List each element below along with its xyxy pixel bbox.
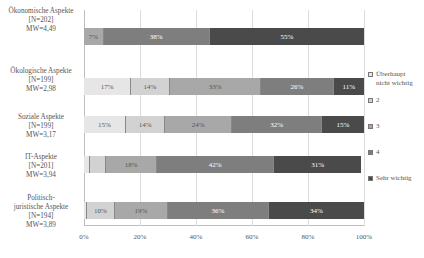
category-label-line: MW=2,98 <box>0 85 82 94</box>
legend-item: 2 <box>368 96 380 105</box>
bar-segment: 24% <box>165 116 232 133</box>
data-label: 34% <box>310 207 323 215</box>
legend-label-line: 2 <box>376 96 380 105</box>
legend-label: 4 <box>376 148 380 157</box>
bar-segment: 32% <box>232 116 322 133</box>
legend-label-line: 3 <box>376 122 380 131</box>
category-label-line: Ökologische Aspekte <box>0 67 82 76</box>
legend-swatch-icon <box>368 124 373 129</box>
x-tick-label: 20% <box>134 233 147 241</box>
bar-segment: 38% <box>104 28 210 45</box>
data-label: 31% <box>311 161 324 169</box>
category-label-line: Ökonomische Aspekte <box>0 7 82 16</box>
bar-row: 17%14%33%26%11% <box>84 78 364 95</box>
bar-segment: 15% <box>84 116 126 133</box>
bar-segment: 26% <box>261 78 333 95</box>
data-label: 26% <box>291 83 304 91</box>
bar-segment: 55% <box>210 28 364 45</box>
legend-swatch-icon <box>368 150 373 155</box>
data-label: 11% <box>342 83 355 91</box>
x-axis <box>84 225 364 226</box>
bar-segment: 15% <box>322 116 364 133</box>
data-label: 18% <box>125 161 138 169</box>
bar-segment: 34% <box>269 202 364 219</box>
x-tick-label: 60% <box>246 233 259 241</box>
bar-segment: 17% <box>84 78 131 95</box>
bar-row: 15%14%24%32%15% <box>84 116 364 133</box>
x-tick-label: 100% <box>356 233 372 241</box>
category-label-line: Politisch- <box>0 194 82 203</box>
bar-segment: 11% <box>334 78 364 95</box>
category-label: Ökologische Aspekte[N=199]MW=2,98 <box>0 67 82 94</box>
category-label-line: [N=202] <box>0 16 82 25</box>
category-label-line: Soziale Aspekte <box>0 113 82 122</box>
category-label: Ökonomische Aspekte[N=202]MW=4,49 <box>0 7 82 34</box>
legend-label: 3 <box>376 122 380 131</box>
data-label: 19% <box>134 207 147 215</box>
stacked-bar-chart: 7%38%55%17%14%33%26%11%15%14%24%32%15%18… <box>0 0 424 258</box>
legend-label: 2 <box>376 96 380 105</box>
x-tick-label: 0% <box>79 233 88 241</box>
bar-segment: 36% <box>168 202 269 219</box>
legend-item: Sehr wichtig <box>368 174 412 183</box>
bar-segment: 31% <box>274 156 361 173</box>
legend-item: 4 <box>368 148 380 157</box>
data-label: 33% <box>209 83 222 91</box>
bar-segment: 19% <box>115 202 168 219</box>
bar-row: 10%19%36%34% <box>84 202 364 219</box>
category-label-line: MW=4,49 <box>0 25 82 34</box>
data-label: 24% <box>192 121 205 129</box>
legend-swatch-icon <box>368 176 373 181</box>
category-label-line: MW=3,89 <box>0 221 82 230</box>
data-label: 32% <box>270 121 283 129</box>
bar-segment: 7% <box>84 28 104 45</box>
data-label: 42% <box>209 161 222 169</box>
legend-label: Überhauptnicht wichtig <box>376 70 413 88</box>
bar-row: 7%38%55% <box>84 28 364 45</box>
data-label: 17% <box>101 83 114 91</box>
legend-swatch-icon <box>368 98 373 103</box>
legend-item: Überhauptnicht wichtig <box>368 70 413 88</box>
bar-segment: 14% <box>126 116 165 133</box>
plot-area: 7%38%55%17%14%33%26%11%15%14%24%32%15%18… <box>84 10 364 226</box>
category-label-line: IT-Aspekte <box>0 153 82 162</box>
category-label: Politisch-juristische Aspekte[N=194]MW=3… <box>0 194 82 230</box>
data-label: 15% <box>337 121 350 129</box>
legend-item: 3 <box>368 122 380 131</box>
category-label: Soziale Aspekte[N=199]MW=3,17 <box>0 113 82 140</box>
data-label: 14% <box>144 83 157 91</box>
x-tick-label: 80% <box>302 233 315 241</box>
data-label: 14% <box>139 121 152 129</box>
category-label-line: [N=199] <box>0 76 82 85</box>
bar-row: 18%42%31% <box>84 156 364 173</box>
bar-segment: 42% <box>157 156 275 173</box>
data-label: 15% <box>98 121 111 129</box>
category-label-line: MW=3,94 <box>0 171 82 180</box>
data-label: 36% <box>211 207 224 215</box>
bar-segment: 10% <box>87 202 115 219</box>
data-label: 55% <box>281 33 294 41</box>
legend-label-line: nicht wichtig <box>376 79 413 88</box>
data-label: 38% <box>150 33 163 41</box>
data-label: 10% <box>94 207 107 215</box>
category-label-line: [N=194] <box>0 212 82 221</box>
data-label: 7% <box>89 33 98 41</box>
bar-segment: 33% <box>170 78 261 95</box>
category-label-line: juristische Aspekte <box>0 203 82 212</box>
bar-segment <box>90 156 107 173</box>
category-label-line: [N=201] <box>0 162 82 171</box>
x-tick-label: 40% <box>190 233 203 241</box>
legend-swatch-icon <box>368 72 373 77</box>
bar-segment: 18% <box>106 156 156 173</box>
legend-label-line: Sehr wichtig <box>376 174 412 183</box>
bar-segment: 14% <box>131 78 170 95</box>
category-label-line: [N=199] <box>0 122 82 131</box>
gridline <box>364 10 365 226</box>
legend-label-line: Überhaupt <box>376 70 413 79</box>
legend-label: Sehr wichtig <box>376 174 412 183</box>
category-label-line: MW=3,17 <box>0 131 82 140</box>
category-label: IT-Aspekte[N=201]MW=3,94 <box>0 153 82 180</box>
legend-label-line: 4 <box>376 148 380 157</box>
